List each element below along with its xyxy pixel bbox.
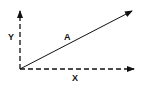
vector-diagram: Y A X <box>0 0 144 85</box>
y-label: Y <box>8 33 14 42</box>
vector-label: A <box>64 33 71 42</box>
x-label: X <box>72 74 78 83</box>
vector-a-arrow <box>20 11 132 69</box>
